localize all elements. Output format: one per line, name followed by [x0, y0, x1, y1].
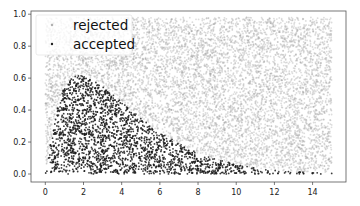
y-tick-label: 0.0: [13, 170, 26, 179]
legend-label-rejected: rejected: [73, 17, 128, 33]
x-tick-label: 10: [231, 188, 241, 197]
x-tick-label: 14: [307, 188, 317, 197]
legend-marker-rejected: [51, 24, 53, 26]
y-tick-label: 0.8: [13, 42, 26, 51]
x-tick-label: 12: [269, 188, 279, 197]
legend-label-accepted: accepted: [73, 36, 135, 52]
legend-marker-accepted: [51, 43, 53, 45]
legend: rejected accepted: [36, 15, 135, 55]
x-tick-label: 8: [195, 188, 200, 197]
x-tick-label: 0: [43, 188, 48, 197]
y-tick-label: 0.4: [13, 106, 26, 115]
x-tick-label: 6: [157, 188, 162, 197]
y-tick-label: 0.2: [13, 138, 26, 147]
y-tick-label: 1.0: [13, 10, 26, 19]
x-tick-label: 4: [119, 188, 124, 197]
chart-canvas: 02468101214 0.00.20.40.60.81.0 rejected …: [0, 0, 360, 206]
x-tick-label: 2: [81, 188, 86, 197]
y-tick-label: 0.6: [13, 74, 26, 83]
scatter-chart: 02468101214 0.00.20.40.60.81.0 rejected …: [0, 0, 360, 206]
